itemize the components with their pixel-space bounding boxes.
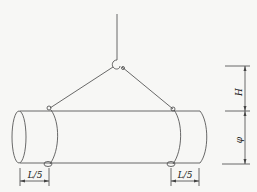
left-sling-bottom	[44, 162, 52, 167]
left-sling-wrap	[50, 110, 58, 164]
hook-icon	[112, 60, 120, 69]
left-sling	[50, 67, 113, 108]
pipe-right-end	[200, 111, 207, 163]
right-offset-label: L/5	[177, 170, 193, 180]
right-sling-bottom	[167, 162, 175, 167]
right-sling	[122, 67, 173, 109]
pipe-left-end	[12, 111, 26, 163]
diameter-label: φ	[234, 136, 244, 143]
pipe-lifting-diagram: H φ L/5 L/5	[0, 0, 257, 192]
height-label: H	[234, 88, 244, 97]
right-sling-wrap	[173, 110, 181, 164]
left-offset-label: L/5	[27, 170, 43, 180]
